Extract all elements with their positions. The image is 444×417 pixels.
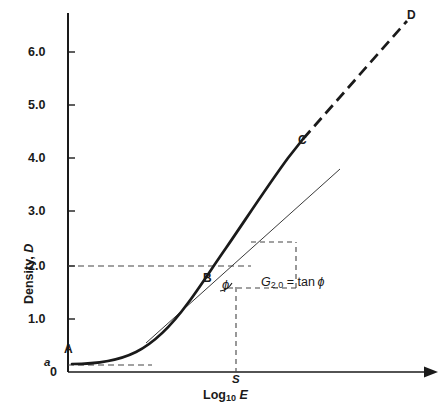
y-axis-title: Density, D	[6, 196, 26, 306]
y-tick-label-6: 6.0	[28, 46, 46, 59]
gamma-subscript: 2.0	[271, 280, 284, 290]
gamma-phi-symbol: ϕ	[317, 275, 324, 289]
y-axis-title-text: Density,	[22, 253, 36, 304]
gamma-equation-annotation: G2.0 = tan ϕ	[261, 276, 324, 290]
y-tick-label-5: 5.0	[28, 99, 46, 112]
characteristic-curve-figure: 6.0 5.0 4.0 3.0 2.0 1.0 0 Density, D Log…	[0, 0, 444, 417]
point-label-a: a	[44, 357, 50, 369]
x-axis-title-var: E	[239, 388, 247, 402]
y-tick-label-1: 1.0	[28, 313, 46, 326]
x-axis-title: Log10 E	[203, 389, 248, 403]
y-tick-label-0: 0	[50, 366, 57, 379]
x-axis-title-base: Log	[203, 388, 226, 402]
phi-angle-label: ϕ	[222, 278, 229, 291]
characteristic-curve-dashed	[303, 21, 407, 139]
y-tick-marks	[68, 52, 75, 319]
y-axis-title-var: D	[22, 244, 36, 253]
gamma-symbol: G	[261, 275, 271, 289]
point-label-D: D	[407, 9, 416, 21]
x-axis-title-sub: 10	[226, 393, 236, 403]
y-tick-label-4: 4.0	[28, 152, 46, 165]
point-label-B: B	[203, 272, 212, 284]
point-label-C: C	[298, 134, 307, 146]
y-tick-label-3: 3.0	[28, 205, 46, 218]
x-axis-arrowhead-icon	[424, 367, 438, 378]
tangent-line	[146, 169, 340, 343]
gamma-equals-tan: = tan	[287, 275, 315, 289]
point-label-A: A	[64, 343, 73, 355]
characteristic-curve-solid	[72, 139, 303, 364]
speed-point-label-S: S	[232, 374, 240, 386]
